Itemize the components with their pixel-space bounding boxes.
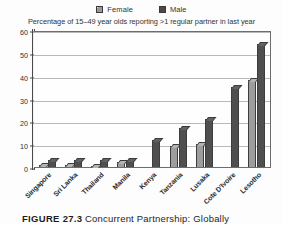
x-axis-label-cell: Tanzania [166, 169, 192, 209]
figure-container: Female Male Percentage of 15–49 year old… [0, 0, 283, 225]
bar-group [191, 32, 217, 167]
bar-male [231, 87, 239, 167]
bar-group [165, 32, 191, 167]
y-axis-tick-label: 40 [20, 73, 28, 82]
bar-female [196, 144, 204, 167]
bar-male [100, 160, 108, 167]
bar-male [48, 160, 56, 167]
figure-caption-text: Concurrent Partnership: Globally [85, 213, 229, 224]
bar-male [179, 128, 187, 167]
bar-group [139, 32, 165, 167]
figure-caption: FIGURE 27.3 Concurrent Partnership: Glob… [22, 213, 283, 224]
y-axis-tick-label: 0 [24, 165, 28, 174]
x-axis-label: Kenya [138, 171, 157, 190]
bar-female [117, 162, 125, 167]
legend-swatch-female-icon [96, 6, 103, 13]
x-axis-label: Singapore [24, 171, 53, 200]
bars-layer [34, 32, 270, 167]
legend-entry-male: Male [159, 5, 187, 14]
legend-swatch-male-icon [159, 6, 166, 13]
figure-caption-number: FIGURE 27.3 [22, 213, 82, 224]
y-axis-tick-label: 20 [20, 119, 28, 128]
y-axis-tick-label: 50 [20, 50, 28, 59]
bar-female [170, 146, 178, 167]
y-axis-tick-label: 10 [20, 142, 28, 151]
bar-female [65, 165, 73, 167]
x-axis-label-cell: Manila [113, 169, 139, 209]
bar-female [91, 166, 99, 167]
legend-entry-female: Female [96, 5, 133, 14]
bar-male [205, 119, 213, 167]
x-axis-labels: SingaporeSri LankaThailandManilaKenyaTan… [34, 169, 271, 209]
bar-group [34, 32, 60, 167]
bar-male [152, 140, 160, 167]
x-axis-label: Lusaka [189, 171, 211, 193]
bar-male [257, 44, 265, 167]
bar-group [113, 32, 139, 167]
bar-female [248, 80, 256, 167]
bar-female [39, 165, 47, 167]
plot-area: 0102030405060 [34, 31, 271, 168]
y-axis-tick-label: 30 [20, 96, 28, 105]
x-axis-label-cell: Thailand [87, 169, 113, 209]
legend-label-female: Female [107, 5, 133, 14]
bar-group [60, 32, 86, 167]
bar-male [74, 160, 82, 167]
chart-title: Percentage of 15–49 year olds reporting … [0, 17, 283, 26]
bar-male [126, 160, 134, 167]
bar-group [218, 32, 244, 167]
x-axis-label: Manila [111, 171, 131, 191]
y-axis-tick-label: 60 [20, 28, 28, 37]
legend-label-male: Male [170, 5, 187, 14]
bar-group [244, 32, 270, 167]
bar-group [86, 32, 112, 167]
chart-legend: Female Male [0, 3, 283, 16]
x-axis-label-cell: Lesotho [245, 169, 271, 209]
